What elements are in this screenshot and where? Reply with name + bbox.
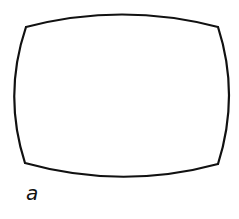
figure-label: a xyxy=(26,183,38,203)
diagram-canvas: a xyxy=(0,0,239,219)
barrel-outline xyxy=(14,15,229,177)
